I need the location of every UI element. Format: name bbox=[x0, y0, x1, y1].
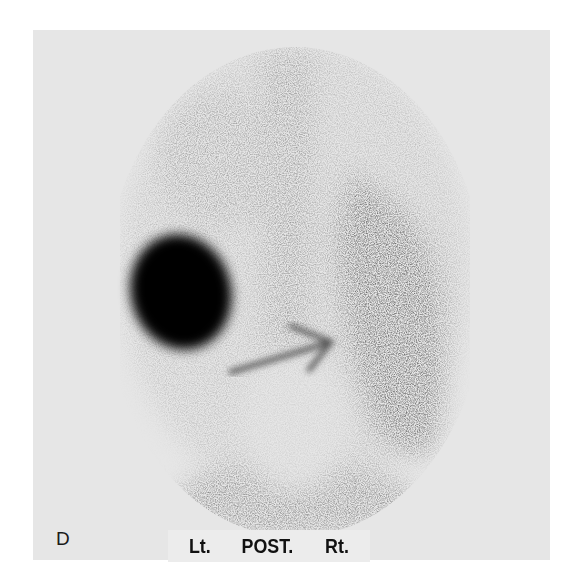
label-posterior: POST. bbox=[242, 534, 294, 558]
scan-panel bbox=[33, 30, 550, 560]
label-left: Lt. bbox=[189, 534, 211, 558]
panel-letter: D bbox=[56, 528, 70, 550]
label-right: Rt. bbox=[325, 534, 349, 558]
view-label-bar: Lt. POST. Rt. bbox=[168, 530, 370, 562]
scintigraphy-image bbox=[33, 30, 550, 560]
